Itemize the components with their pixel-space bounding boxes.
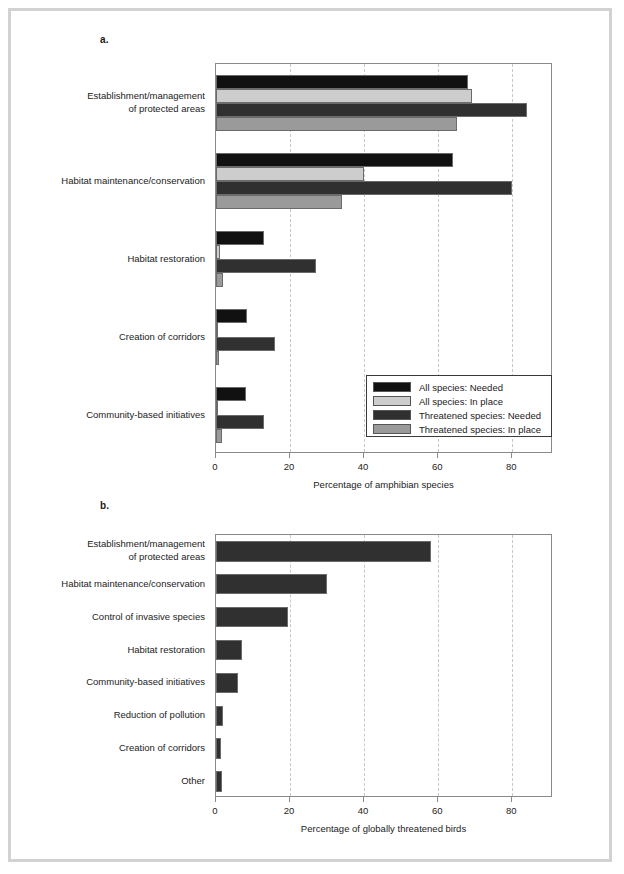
category-label-line: Reduction of pollution [114,708,205,721]
x-axis-tick [363,797,364,802]
bar [216,259,316,273]
bar [216,117,457,131]
category-label-line: of protected areas [87,550,205,563]
x-axis-tick-label: 0 [212,461,217,472]
legend-swatch [373,382,411,392]
x-axis-tick-label: 20 [284,461,295,472]
category-label-line: Habitat restoration [127,252,205,265]
x-axis-tick [289,453,290,458]
panel-b-letter: b. [100,500,109,511]
gridline [364,535,366,796]
legend-swatch [373,424,411,434]
x-axis-tick [215,797,216,802]
bar [216,195,342,209]
bar [216,89,472,103]
gridline [438,535,440,796]
category-label-line: Creation of corridors [119,741,205,754]
category-label-line: Establishment/management [87,89,205,102]
category-label-line: Habitat restoration [127,643,205,656]
bar [216,415,264,429]
legend-row: Threatened species: Needed [373,408,545,422]
bar [216,738,221,758]
category-label: Habitat restoration [127,252,205,265]
category-label-line: Community-based initiatives [86,408,205,421]
bar [216,351,219,365]
bar [216,309,247,323]
panel-a-legend: All species: NeededAll species: In place… [366,375,552,437]
panel-a-letter: a. [100,34,109,45]
bar [216,387,246,401]
bar [216,673,238,693]
bar [216,337,275,351]
category-label: Reduction of pollution [114,708,205,721]
bar [216,103,527,117]
bar [216,640,242,660]
x-axis-title: Percentage of globally threatened birds [301,823,466,834]
bar [216,429,222,443]
gridline [512,535,514,796]
legend-label: All species: Needed [419,382,503,393]
legend-row: All species: Needed [373,380,545,394]
category-label-line: Habitat maintenance/conservation [61,174,205,187]
x-axis-tick [289,797,290,802]
x-axis-tick [511,453,512,458]
bar [216,167,364,181]
category-label: Habitat maintenance/conservation [61,577,205,590]
category-label: Other [181,774,205,787]
bar [216,273,223,287]
category-label: Habitat maintenance/conservation [61,174,205,187]
category-label-line: Habitat maintenance/conservation [61,577,205,590]
x-axis-tick-label: 40 [358,805,369,816]
category-label-line: of protected areas [87,102,205,115]
category-label-line: Establishment/management [87,537,205,550]
x-axis-tick-label: 0 [212,805,217,816]
category-label-line: Creation of corridors [119,330,205,343]
x-axis-tick-label: 60 [432,461,443,472]
x-axis-tick [437,797,438,802]
bar [216,245,220,259]
category-label: Establishment/managementof protected are… [87,89,205,115]
legend-row: Threatened species: In place [373,422,545,436]
legend-swatch [373,396,411,406]
bar [216,323,218,337]
x-axis-tick [215,453,216,458]
category-label: Community-based initiatives [86,675,205,688]
x-axis-tick-label: 80 [506,461,517,472]
bar [216,574,327,594]
legend-label: Threatened species: In place [419,424,541,435]
bar [216,706,223,726]
legend-row: All species: In place [373,394,545,408]
category-label: Creation of corridors [119,330,205,343]
x-axis-tick [511,797,512,802]
x-axis-tick [363,453,364,458]
category-label-line: Community-based initiatives [86,675,205,688]
bar [216,231,264,245]
category-label-line: Other [181,774,205,787]
x-axis-tick-label: 40 [358,461,369,472]
category-label-line: Control of invasive species [92,610,205,623]
x-axis-tick [437,453,438,458]
bar [216,607,288,627]
panel-b-plot-area [215,534,552,797]
bar [216,153,453,167]
x-axis-tick-label: 80 [506,805,517,816]
category-label: Habitat restoration [127,643,205,656]
x-axis-tick-label: 20 [284,805,295,816]
category-label: Creation of corridors [119,741,205,754]
bar [216,75,468,89]
legend-label: Threatened species: Needed [419,410,541,421]
bar [216,771,222,791]
bar [216,541,431,561]
bar [216,401,218,415]
x-axis-title: Percentage of amphibian species [313,479,453,490]
figure-root: a. All species: NeededAll species: In pl… [0,0,624,874]
x-axis-tick-label: 60 [432,805,443,816]
bar [216,181,512,195]
category-label: Community-based initiatives [86,408,205,421]
category-label: Control of invasive species [92,610,205,623]
category-label: Establishment/managementof protected are… [87,537,205,563]
legend-label: All species: In place [419,396,503,407]
legend-swatch [373,410,411,420]
